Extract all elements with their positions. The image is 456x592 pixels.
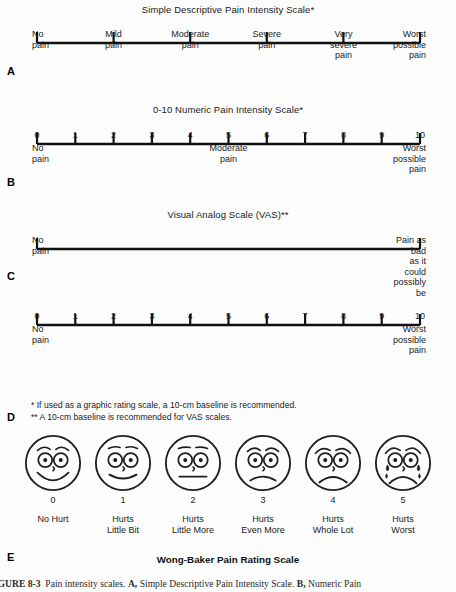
face-value: 1	[120, 495, 125, 505]
panel-b-tick-1: 1	[73, 130, 78, 140]
panel-d-tick-4: 4	[188, 311, 193, 321]
panel-d-tick-9: 9	[379, 311, 384, 321]
panel-a-label-0: No pain	[32, 29, 49, 50]
panel-a-label-2: Moderate pain	[171, 29, 209, 50]
face-big-smile-icon	[22, 432, 84, 494]
panel-c-axis: No painPain as bad as it could possibly …	[0, 234, 456, 256]
panel-b-tick-4: 4	[188, 130, 193, 140]
face-slight-smile-icon	[92, 432, 154, 494]
panel-a-label-3: Severe pain	[253, 29, 282, 50]
face-option-5[interactable]: 5Hurts Worst	[368, 432, 438, 535]
panel-c-anchor-1: Pain as bad as it could possibly be	[393, 235, 426, 298]
panel-d-anchor-1: Worst possible pain	[393, 324, 426, 356]
panel-b-tick-3: 3	[149, 130, 154, 140]
panel-b-axis: 012345678910 No painModerate painWorst p…	[0, 129, 456, 151]
panel-letter-c: C	[7, 270, 15, 282]
wong-baker-title: Wong-Baker Pain Rating Scale	[0, 554, 456, 565]
face-value: 3	[260, 495, 265, 505]
panel-c: Visual Analog Scale (VAS)** No painPain …	[0, 209, 456, 256]
panel-b-tick-7: 7	[303, 130, 308, 140]
figure-caption-number: FIGURE 8-3	[0, 578, 41, 589]
face-option-0[interactable]: 0No Hurt	[18, 432, 88, 535]
panel-b-tick-0: 0	[34, 130, 39, 140]
face-frown-icon	[232, 432, 294, 494]
panel-d-tick-6: 6	[264, 311, 269, 321]
panel-letter-d: D	[7, 411, 15, 423]
panel-a-label-1: Mild pain	[105, 29, 122, 50]
face-label: Hurts Little Bit	[107, 514, 139, 535]
face-deep-frown-icon	[302, 432, 364, 494]
panel-b-tick-5: 5	[226, 130, 231, 140]
panel-c-scale-line	[0, 234, 456, 256]
panel-b-tick-8: 8	[341, 130, 346, 140]
face-option-1[interactable]: 1Hurts Little Bit	[88, 432, 158, 535]
panel-d-tick-8: 8	[341, 311, 346, 321]
panel-c-title: Visual Analog Scale (VAS)**	[0, 209, 456, 220]
panel-a-scale-line	[0, 28, 456, 50]
figure-caption: FIGURE 8-3 Pain intensity scales. A, Sim…	[0, 578, 456, 590]
face-value: 5	[400, 495, 405, 505]
panel-b-title: 0-10 Numeric Pain Intensity Scale*	[0, 104, 456, 115]
face-neutral-icon	[162, 432, 224, 494]
panel-b-anchor-1: Moderate pain	[209, 143, 247, 164]
panel-a-axis: No painMild painModerate painSevere pain…	[0, 28, 456, 50]
panel-d-tick-2: 2	[111, 311, 116, 321]
panel-c-anchor-0: No pain	[32, 235, 49, 256]
face-label: Hurts Whole Lot	[313, 514, 354, 535]
panel-b-tick-6: 6	[264, 130, 269, 140]
panel-b: 0-10 Numeric Pain Intensity Scale* 01234…	[0, 104, 456, 151]
face-label: Hurts Worst	[391, 514, 414, 535]
panel-letter-a: A	[7, 65, 15, 77]
panel-d-tick-0: 0	[34, 311, 39, 321]
panel-a-label-5: Worst possible pain	[393, 29, 426, 61]
panel-d-tick-1: 1	[73, 311, 78, 321]
panel-d-tick-5: 5	[226, 311, 231, 321]
panel-b-anchor-2: Worst possible pain	[393, 143, 426, 175]
panel-d-axis: 012345678910 No painWorst possible pain	[0, 310, 456, 332]
wong-baker-faces-row: 0No Hurt1Hurts Little Bit2Hurts Little M…	[0, 432, 456, 535]
face-option-3[interactable]: 3Hurts Even More	[228, 432, 298, 535]
panel-d: 012345678910 No painWorst possible pain …	[0, 310, 456, 332]
figure-caption-a-letter: A,	[128, 578, 137, 589]
face-option-2[interactable]: 2Hurts Little More	[158, 432, 228, 535]
panel-b-tick-9: 9	[379, 130, 384, 140]
face-value: 2	[190, 495, 195, 505]
figure-caption-a-text: Simple Descriptive Pain Intensity Scale.	[140, 578, 295, 589]
panel-d-tick-10: 10	[415, 311, 425, 321]
panel-d-footnotes: * If used as a graphic rating scale, a 1…	[31, 400, 297, 423]
panel-letter-b: B	[7, 176, 15, 188]
panel-d-anchor-0: No pain	[32, 324, 49, 345]
face-value: 4	[330, 495, 335, 505]
figure-caption-text: Pain intensity scales.	[45, 578, 125, 589]
panel-letter-e: E	[7, 551, 14, 563]
panel-a-label-4: Very severe pain	[330, 29, 357, 61]
panel-d-tick-3: 3	[149, 311, 154, 321]
panel-b-tick-10: 10	[415, 130, 425, 140]
face-label: No Hurt	[37, 514, 68, 525]
panel-b-anchor-0: No pain	[32, 143, 49, 164]
footnote-single-asterisk: * If used as a graphic rating scale, a 1…	[31, 400, 297, 412]
panel-a-title: Simple Descriptive Pain Intensity Scale*	[0, 4, 456, 15]
face-value: 0	[50, 495, 55, 505]
panel-a: Simple Descriptive Pain Intensity Scale*…	[0, 4, 456, 50]
figure-caption-b-text: Numeric Pain	[308, 578, 361, 589]
panel-b-tick-2: 2	[111, 130, 116, 140]
face-option-4[interactable]: 4Hurts Whole Lot	[298, 432, 368, 535]
face-label: Hurts Even More	[241, 514, 285, 535]
face-crying-icon	[372, 432, 434, 494]
figure-caption-b-letter: B,	[297, 578, 306, 589]
footnote-double-asterisk: ** A 10-cm baseline is recommended for V…	[31, 412, 297, 424]
panel-d-tick-7: 7	[303, 311, 308, 321]
face-label: Hurts Little More	[172, 514, 214, 535]
